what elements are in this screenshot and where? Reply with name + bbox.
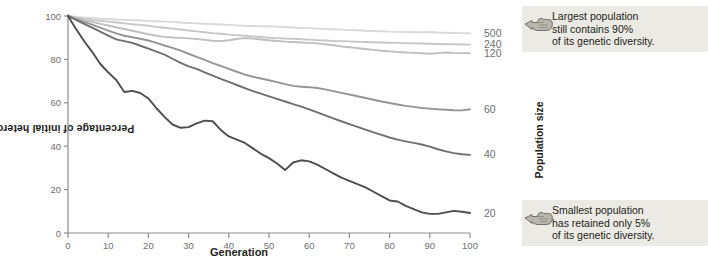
callout-line-1: Smallest population: [552, 204, 702, 217]
y-tick-label: 0: [56, 228, 61, 239]
pointing-hand-icon: [524, 208, 554, 228]
y-tick-label: 80: [50, 54, 61, 65]
x-tick-label: 100: [462, 240, 478, 251]
x-axis-title: Generation: [210, 246, 268, 258]
callout-line-3: of its genetic diversity.: [552, 35, 702, 48]
largest-population-callout: Largest population still contains 90% of…: [522, 6, 708, 52]
pointing-hand-icon: [524, 14, 554, 34]
y-tick-label: 60: [50, 97, 61, 108]
x-tick-label: 20: [143, 240, 154, 251]
x-tick-label: 0: [65, 240, 70, 251]
series-end-label-500: 500: [484, 27, 502, 39]
x-tick-label: 80: [384, 240, 395, 251]
series-end-label-20: 20: [484, 207, 496, 219]
series-end-label-120: 120: [484, 47, 502, 59]
population-size-axis-title: Population size: [528, 90, 550, 190]
series-end-label-60: 60: [484, 103, 496, 115]
series-line-120: [68, 16, 470, 54]
smallest-population-callout: Smallest population has retained only 5%…: [522, 200, 708, 246]
callout-line-2: still contains 90%: [552, 23, 702, 36]
series-line-20: [68, 16, 470, 214]
callout-line-3: of its genetic diversity.: [552, 229, 702, 242]
x-tick-label: 70: [344, 240, 355, 251]
x-tick-label: 30: [183, 240, 194, 251]
callout-line-2: has retained only 5%: [552, 217, 702, 230]
series-end-label-40: 40: [484, 148, 496, 160]
population-size-axis-title-text: Population size: [533, 101, 545, 178]
y-tick-label: 40: [50, 141, 61, 152]
y-tick-label: 100: [45, 11, 61, 22]
y-tick-label: 20: [50, 184, 61, 195]
callout-line-1: Largest population: [552, 10, 702, 23]
x-tick-label: 90: [425, 240, 436, 251]
x-tick-label: 60: [304, 240, 315, 251]
x-tick-label: 10: [103, 240, 114, 251]
